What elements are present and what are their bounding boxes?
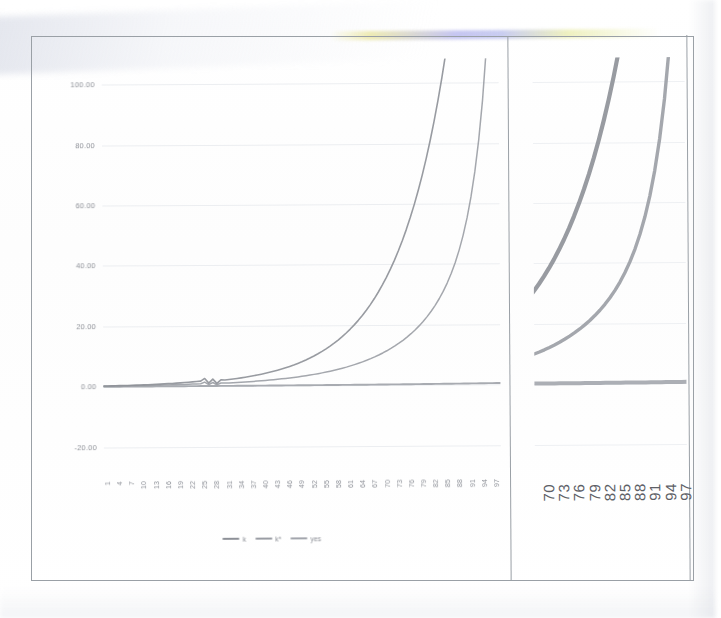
main-plot-area: 100.0080.0060.0040.0020.000.00-20.00 147… [101,58,501,477]
x-tick-label: 88 [456,479,463,487]
x-tick-label: 61 [347,480,354,488]
x-tick-label: 82 [432,480,439,488]
x-tick-label: 46 [286,480,293,488]
x-tick-label: 22 [189,481,196,489]
y-tick-label: 40.00 [76,262,96,271]
y-tick-label: 80.00 [75,141,95,150]
detail-series-path-k [532,57,685,298]
x-tick-label: 49 [298,480,305,488]
detail-x-tick-label: 91 [647,483,664,501]
x-tick-label: 43 [274,480,281,488]
chart-rotation-wrapper: 100.0080.0060.0040.0020.000.00-20.00 147… [30,35,694,582]
main-series-curves [101,58,501,477]
detail-series-path-yes [532,382,686,384]
y-tick-label: -20.00 [74,443,97,452]
x-tick-label: 55 [323,480,330,488]
x-tick-label: 37 [250,481,257,489]
x-tick-label: 7 [128,481,135,485]
x-tick-label: 16 [165,481,172,489]
chart-frame: 100.0080.0060.0040.0020.000.00-20.00 147… [31,36,694,581]
x-tick-label: 28 [213,481,220,489]
x-tick-label: 10 [141,481,148,489]
chart-legend: k k* yes [33,533,510,543]
legend-label-k-star: k* [275,535,281,542]
x-tick-label: 19 [177,481,184,489]
legend-swatch-k-star [255,537,272,539]
x-tick-label: 85 [444,479,451,487]
legend-label-k: k [243,535,247,542]
x-tick-label: 76 [408,480,415,488]
x-tick-label: 58 [335,480,342,488]
panel-divider [507,36,511,581]
detail-x-tick-label: 76 [571,484,588,502]
detail-x-tick-label: 97 [677,483,694,501]
y-tick-label: 60.00 [76,201,96,210]
x-tick-label: 97 [493,479,500,487]
y-tick-label: 0.00 [81,382,96,391]
legend-swatch-yes [290,537,307,539]
x-tick-label: 73 [396,480,403,488]
x-tick-label: 40 [262,481,269,489]
series-path-k [101,58,500,386]
detail-series-curves [532,57,687,475]
legend-item-k: k [223,535,247,542]
y-tick-label: 20.00 [76,322,96,331]
x-tick-label: 64 [359,480,366,488]
x-tick-label: 4 [116,481,123,485]
x-tick-label: 34 [238,481,245,489]
x-tick-label: 94 [481,479,488,487]
legend-item-yes: yes [290,534,321,541]
y-tick-label: 100.00 [70,80,94,89]
x-tick-label: 70 [384,480,391,488]
legend-swatch-k [223,537,240,539]
x-tick-label: 79 [420,480,427,488]
x-tick-label: 1 [104,482,111,486]
x-tick-label: 31 [226,481,233,489]
x-tick-label: 67 [371,480,378,488]
x-tick-label: 25 [201,481,208,489]
series-path-k-star [101,58,500,386]
x-tick-label: 91 [469,479,476,487]
legend-item-k-star: k* [255,535,281,542]
legend-label-yes: yes [310,535,321,542]
x-tick-label: 52 [311,480,318,488]
scan-edge-shadow-bottom [0,588,715,618]
detail-plot-area: 70737679828588919497 [532,57,687,475]
x-tick-label: 13 [153,481,160,489]
